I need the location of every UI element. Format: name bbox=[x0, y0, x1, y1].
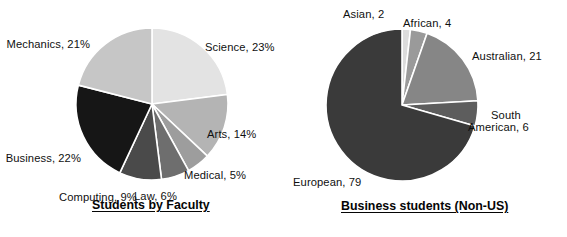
pie-label-medical: Medical, 5% bbox=[184, 169, 246, 181]
pie-label-south-american-line1: South bbox=[491, 109, 521, 121]
business-pie-graphic bbox=[290, 0, 567, 200]
pie-label-european: European, 79 bbox=[293, 176, 361, 188]
pie-label-science: Science, 23% bbox=[205, 41, 275, 53]
faculty-pie-graphic bbox=[0, 0, 290, 200]
pie-label-south-american-line2: American, 6 bbox=[468, 121, 529, 133]
pie-chart-students-by-faculty: Science, 23% Arts, 14% Medical, 5% Law, … bbox=[0, 0, 290, 237]
pie-label-arts: Arts, 14% bbox=[207, 128, 256, 140]
pie-slice-science bbox=[152, 28, 227, 104]
pie-label-african: African, 4 bbox=[403, 17, 451, 29]
pie-label-australian: Australian, 21 bbox=[472, 50, 542, 62]
pie-chart-business-students-non-us: Asian, 2 African, 4 Australian, 21 South… bbox=[290, 0, 567, 237]
chart-title-students-by-faculty: Students by Faculty bbox=[92, 198, 210, 212]
pie-label-mechanics: Mechanics, 21% bbox=[0, 38, 90, 50]
chart-title-business-students-non-us: Business students (Non-US) bbox=[341, 199, 508, 213]
figure-canvas: Science, 23% Arts, 14% Medical, 5% Law, … bbox=[0, 0, 567, 237]
pie-label-business: Business, 22% bbox=[0, 152, 81, 164]
pie-label-asian: Asian, 2 bbox=[343, 8, 384, 20]
